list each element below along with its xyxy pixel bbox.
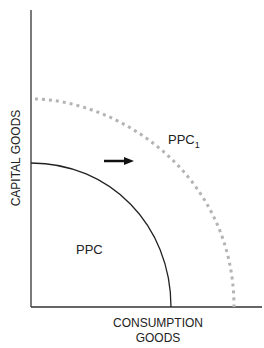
- ppc-curve: [31, 163, 171, 307]
- x-axis-label-line2: GOODS: [136, 331, 181, 345]
- ppc1-label: PPC1: [168, 132, 200, 150]
- x-axis-label-line1: CONSUMPTION: [113, 316, 203, 330]
- shift-arrow-icon: [104, 157, 134, 165]
- y-axis-label: CAPITAL GOODS: [9, 110, 23, 207]
- ppc-diagram: PPC1 PPC CAPITAL GOODS CONSUMPTION GOODS: [0, 0, 264, 348]
- ppc1-curve: [35, 99, 234, 307]
- ppc-label: PPC: [76, 242, 103, 257]
